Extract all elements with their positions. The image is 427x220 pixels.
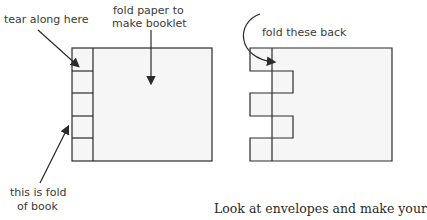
fold-of-book-label-1: this is fold (10, 186, 67, 199)
fold-of-book-label-2: of book (17, 200, 58, 213)
fold-paper-label-1: fold paper to (113, 4, 184, 17)
fold-back-label: fold these back (262, 26, 346, 39)
caption-text: Look at envelopes and make your (214, 201, 427, 216)
book-fold-arrow (40, 127, 68, 183)
left-diagram (38, 30, 212, 183)
tear-label: tear along here (4, 13, 89, 26)
fold-paper-label-2: make booklet (112, 17, 187, 30)
